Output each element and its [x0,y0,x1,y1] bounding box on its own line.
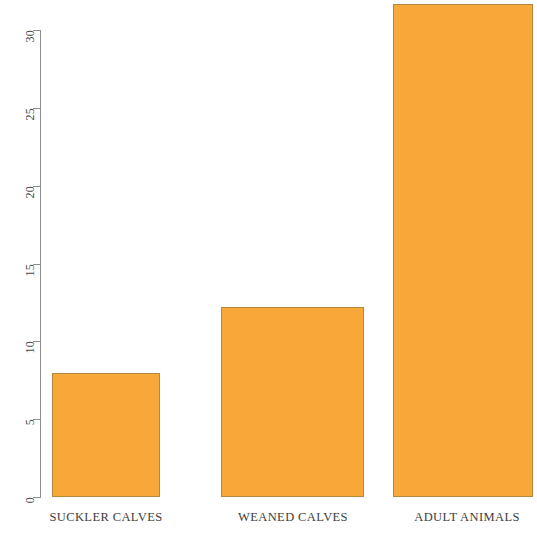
y-tick-label-10: 10 [24,341,36,371]
y-tick-label-15: 15 [24,264,36,294]
bar-adult-animals [393,4,533,497]
y-tick-label-20: 20 [24,186,36,216]
x-category-label-adult-animals: ADULT ANIMALS [377,510,537,524]
y-tick-label-25: 25 [24,108,36,138]
y-tick-label-5: 5 [24,419,36,449]
bar-suckler-calves [52,373,160,498]
x-category-label-suckler-calves: SUCKLER CALVES [16,510,196,524]
x-category-label-weaned-calves: WEANED CALVES [203,510,383,524]
bar-weaned-calves [221,307,364,497]
y-tick-label-30: 30 [24,30,36,60]
